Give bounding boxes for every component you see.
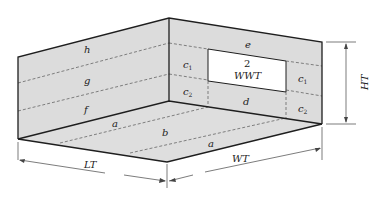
label-b: b	[162, 127, 168, 138]
dimension-lt: LT	[83, 159, 98, 170]
room-diagram: h g f e c1 c2 c1 c2 d 2 WWT a b a LT WT …	[0, 0, 370, 199]
arrow-down-icon	[344, 117, 348, 123]
label-e: e	[245, 39, 251, 50]
window-count: 2	[244, 58, 250, 69]
dimension-wt: WT	[232, 153, 250, 164]
arrow-left-icon	[19, 159, 25, 163]
arrow-right-icon	[315, 148, 321, 152]
arrow-right-icon	[159, 178, 166, 183]
label-a-left: a	[112, 118, 118, 129]
window-label: WWT	[234, 70, 263, 81]
label-d: d	[243, 96, 249, 107]
label-g: g	[84, 75, 90, 86]
label-h: h	[84, 44, 90, 55]
dimension-ht: HT	[359, 73, 370, 91]
label-a-right: a	[208, 138, 214, 149]
arrow-left-icon	[169, 178, 176, 182]
arrow-up-icon	[344, 43, 348, 49]
